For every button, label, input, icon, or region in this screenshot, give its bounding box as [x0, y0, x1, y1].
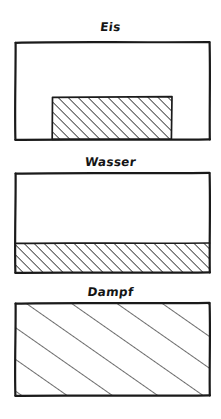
eis-fill-hatching — [52, 97, 172, 139]
states-of-matter-diagram: Eis Wasser Dampf — [0, 0, 221, 419]
panel-eis — [15, 42, 210, 140]
wasser-container-left-edge — [15, 174, 16, 273]
dampf-container-left-edge — [15, 304, 16, 396]
wasser-fill-hatching — [15, 243, 210, 272]
eis-container-top-edge — [16, 42, 210, 43]
dampf-container-top-edge — [16, 303, 210, 304]
eis-container-left-edge — [15, 43, 16, 140]
wasser-container-top-edge — [16, 173, 210, 174]
diagram-artwork — [0, 0, 221, 419]
dampf-fill-hatching — [15, 303, 210, 395]
panel-wasser — [15, 173, 210, 273]
panel-dampf — [15, 303, 210, 396]
